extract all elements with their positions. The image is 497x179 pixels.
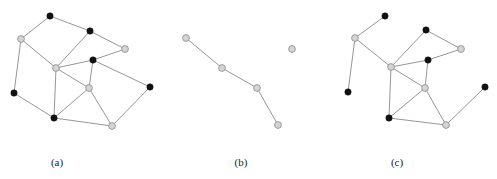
graph-edge <box>348 38 355 92</box>
graph-edge <box>389 67 391 118</box>
graph-edge <box>14 39 21 93</box>
graph-edge <box>93 60 150 87</box>
graph-edge <box>50 16 90 31</box>
graph-edge <box>428 49 461 60</box>
graph-edge <box>391 67 425 88</box>
graph-node-grey <box>422 85 429 92</box>
graph-edge <box>355 38 391 67</box>
graph-node-black <box>382 13 388 19</box>
graph-edge <box>54 118 112 126</box>
graph-node-grey <box>443 122 450 129</box>
graph-node-black <box>11 90 17 96</box>
graph-node-grey <box>18 36 25 43</box>
graph-edge <box>21 39 56 68</box>
graph-edge <box>56 60 93 68</box>
graph-edge <box>425 60 428 88</box>
graph-edge <box>89 60 93 88</box>
graph-node-grey <box>219 65 226 72</box>
panel-label-a: (a) <box>51 156 63 168</box>
graph-node-grey <box>275 122 282 129</box>
nodes-layer <box>11 13 488 130</box>
graph-node-black <box>386 115 392 121</box>
graph-edge <box>446 87 485 125</box>
panel-label-c: (c) <box>391 156 403 168</box>
graph-edge <box>90 31 125 49</box>
graph-node-black <box>87 28 93 34</box>
graph-edge <box>355 16 385 38</box>
graph-node-grey <box>458 46 465 53</box>
panel-label-b: (b) <box>235 156 248 168</box>
graph-node-black <box>90 57 96 63</box>
graph-figure <box>0 0 497 179</box>
graph-node-grey <box>289 46 296 53</box>
graph-node-grey <box>122 46 129 53</box>
graph-edge <box>222 68 257 88</box>
graph-node-black <box>425 57 431 63</box>
graph-node-grey <box>109 123 116 130</box>
graph-edge <box>56 31 90 68</box>
graph-node-black <box>345 89 351 95</box>
graph-edge <box>56 68 89 88</box>
graph-edge <box>112 87 150 126</box>
graph-node-grey <box>352 35 359 42</box>
edges-layer <box>14 16 485 126</box>
graph-edge <box>426 30 461 49</box>
graph-node-black <box>47 13 53 19</box>
graph-edge <box>186 38 222 68</box>
graph-edge <box>54 88 89 118</box>
graph-node-black <box>423 27 429 33</box>
graph-node-grey <box>183 35 190 42</box>
graph-node-grey <box>53 65 60 72</box>
graph-edge <box>89 88 112 126</box>
graph-node-grey <box>86 85 93 92</box>
graph-edge <box>54 68 56 118</box>
graph-node-grey <box>254 85 261 92</box>
graph-edge <box>21 16 50 39</box>
graph-edge <box>389 118 446 125</box>
graph-node-black <box>482 84 488 90</box>
graph-node-black <box>147 84 153 90</box>
graph-edge <box>425 88 446 125</box>
graph-node-grey <box>388 64 395 71</box>
graph-edge <box>93 49 125 60</box>
graph-edge <box>14 93 54 118</box>
graph-edge <box>257 88 278 125</box>
graph-node-black <box>51 115 57 121</box>
graph-edge <box>389 88 425 118</box>
